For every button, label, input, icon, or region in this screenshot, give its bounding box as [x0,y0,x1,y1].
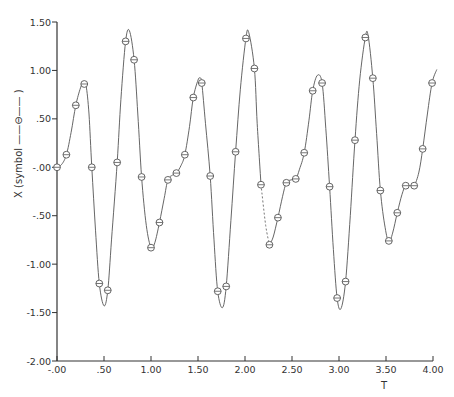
circle-marker-icon [104,287,111,294]
y-tick-label: -1.50 [26,307,51,318]
circle-marker-icon [419,145,426,152]
x-tick-label: 3.50 [375,364,396,375]
circle-marker-icon [148,244,155,251]
circle-marker-icon [138,174,145,181]
circle-marker-icon [131,56,138,63]
y-tick-label: -1.00 [26,259,51,270]
circle-marker-icon [251,65,258,72]
y-tick-label: -.50 [32,210,51,221]
series-line-dashed [261,185,269,245]
circle-marker-icon [352,137,359,144]
x-tick-label: 2.50 [281,364,302,375]
circle-marker-icon [369,75,376,82]
x-tick-label: 2.00 [234,364,255,375]
circle-marker-icon [181,151,188,158]
circle-marker-icon [309,87,316,94]
circle-marker-icon [283,179,290,186]
x-axis-ticks: -.00.501.001.502.002.503.003.504.00 [48,356,444,375]
circle-marker-icon [266,241,273,248]
x-tick-label: -.00 [48,364,67,375]
circle-marker-icon [334,295,341,302]
circle-marker-icon [88,164,95,171]
circle-marker-icon [394,209,401,216]
circle-marker-icon [54,164,61,171]
circle-marker-icon [326,183,333,190]
circle-marker-icon [362,34,369,41]
circle-marker-icon [292,176,299,183]
circle-marker-icon [232,148,239,155]
circle-marker-icon [72,102,79,109]
circle-marker-icon [96,280,103,287]
x-tick-label: 1.00 [140,364,161,375]
circle-marker-icon [377,187,384,194]
circle-marker-icon [165,176,172,183]
circle-marker-icon [223,283,230,290]
y-axis-ticks: -2.00-1.50-1.00-.50-.00.501.001.50 [26,17,57,367]
circle-marker-icon [173,170,180,177]
x-tick-label: .50 [96,364,111,375]
circle-marker-icon [275,214,282,221]
data-markers [54,34,436,301]
circle-marker-icon [122,38,129,45]
circle-marker-icon [63,151,70,158]
circle-marker-icon [385,237,392,244]
axes [57,22,433,361]
circle-marker-icon [207,173,214,180]
line-chart: -2.00-1.50-1.00-.50-.00.501.001.50 -.00.… [0,0,454,397]
data-series [57,29,437,309]
y-axis-label: X (symbol ——⊖—— ) [13,89,24,198]
circle-marker-icon [214,288,221,295]
x-tick-label: 4.00 [422,364,443,375]
y-tick-label: 1.00 [30,65,51,76]
circle-marker-icon [243,35,250,42]
circle-marker-icon [429,80,436,87]
circle-marker-icon [342,278,349,285]
circle-marker-icon [190,94,197,101]
y-tick-label: -.00 [32,162,51,173]
x-axis-label: T [380,380,388,391]
circle-marker-icon [114,159,121,166]
x-tick-label: 1.50 [187,364,208,375]
series-line [269,31,436,309]
circle-marker-icon [258,181,265,188]
circle-marker-icon [402,182,409,189]
circle-marker-icon [301,149,308,156]
x-tick-label: 3.00 [328,364,349,375]
circle-marker-icon [81,81,88,88]
circle-marker-icon [319,80,326,87]
y-tick-label: .50 [36,113,51,124]
circle-marker-icon [156,219,163,226]
circle-marker-icon [198,80,205,87]
series-line [57,29,261,307]
circle-marker-icon [411,182,418,189]
y-tick-label: 1.50 [30,17,51,28]
